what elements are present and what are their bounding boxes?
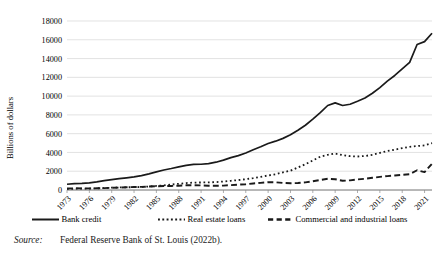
legend-label: Real estate loans bbox=[188, 214, 246, 224]
x-axis-tick-label: 1979 bbox=[100, 194, 118, 212]
y-axis-tick-label: 2000 bbox=[46, 167, 62, 176]
x-axis-tick-label: 2021 bbox=[413, 194, 431, 212]
source-note: Source:Federal Reserve Bank of St. Louis… bbox=[14, 234, 434, 247]
line-chart: 0200040006000800010000120001400016000180… bbox=[0, 0, 438, 232]
x-axis-tick-label: 2006 bbox=[301, 194, 319, 212]
chart-legend: Bank creditReal estate loansCommercial a… bbox=[32, 214, 408, 224]
chart-area: 0200040006000800010000120001400016000180… bbox=[0, 0, 438, 232]
figure-container: 0200040006000800010000120001400016000180… bbox=[0, 0, 438, 254]
legend-label: Commercial and industrial loans bbox=[296, 214, 409, 224]
x-axis-tick-label: 1988 bbox=[167, 194, 185, 212]
y-axis-tick-label: 0 bbox=[58, 186, 62, 195]
x-axis-tick-label: 1973 bbox=[55, 194, 73, 212]
x-axis-tick-label: 2018 bbox=[390, 194, 408, 212]
x-axis-tick-label: 1976 bbox=[77, 194, 95, 212]
y-axis-label: Billions of dollars bbox=[5, 96, 15, 159]
grid-lines bbox=[67, 21, 432, 190]
y-axis-tick-labels: 0200040006000800010000120001400016000180… bbox=[42, 17, 62, 195]
source-label: Source: bbox=[14, 234, 60, 247]
y-axis-tick-label: 18000 bbox=[42, 17, 62, 26]
x-axis-tick-marks bbox=[67, 190, 425, 193]
x-axis-tick-label: 1991 bbox=[189, 194, 207, 212]
y-axis-tick-label: 12000 bbox=[42, 73, 62, 82]
x-axis-tick-label: 2000 bbox=[256, 194, 274, 212]
series-line bbox=[67, 143, 432, 189]
x-axis-tick-label: 2015 bbox=[368, 194, 386, 212]
x-axis-tick-label: 2012 bbox=[345, 194, 363, 212]
y-axis-tick-label: 8000 bbox=[46, 111, 62, 120]
y-axis-tick-label: 16000 bbox=[42, 36, 62, 45]
x-axis-tick-label: 1997 bbox=[234, 194, 252, 212]
series-line bbox=[67, 164, 432, 189]
data-series-group bbox=[67, 33, 432, 189]
y-axis-tick-label: 6000 bbox=[46, 130, 62, 139]
x-axis-tick-labels: 1973197619791982198519881991199419972000… bbox=[55, 194, 430, 212]
x-axis-tick-label: 1994 bbox=[211, 194, 229, 212]
legend-label: Bank credit bbox=[62, 214, 102, 224]
x-axis-tick-label: 2009 bbox=[323, 194, 341, 212]
x-axis-tick-label: 1985 bbox=[144, 194, 162, 212]
y-axis-tick-label: 14000 bbox=[42, 55, 62, 64]
y-axis-tick-label: 10000 bbox=[42, 92, 62, 101]
x-axis-tick-label: 2003 bbox=[278, 194, 296, 212]
source-text: Federal Reserve Bank of St. Louis (2022b… bbox=[60, 234, 222, 247]
series-line bbox=[67, 33, 432, 184]
x-axis-tick-label: 1982 bbox=[122, 194, 140, 212]
y-axis-tick-label: 4000 bbox=[46, 149, 62, 158]
